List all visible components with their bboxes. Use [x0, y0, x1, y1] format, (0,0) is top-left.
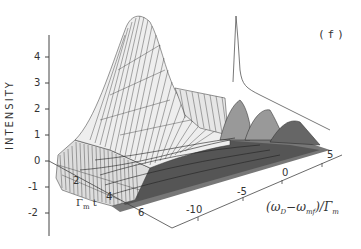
- time-axis-label: Γm t: [76, 197, 97, 211]
- x-label-sub2: mf: [306, 208, 315, 216]
- x-tick-minus5: -5: [237, 187, 247, 197]
- x-axis-label: (ωD−ωmf)/Γm: [266, 200, 339, 216]
- t-tick-6: 6: [138, 208, 144, 218]
- x-label-part2: −ω: [286, 200, 306, 214]
- x-tick-5: 5: [327, 150, 333, 160]
- t-tick-2: 2: [73, 176, 79, 186]
- y-tick-minus2: -2: [28, 208, 38, 218]
- y-tick-3: 3: [34, 78, 40, 88]
- panel-label: (f): [318, 28, 347, 41]
- y-axis-label: INTENSITY: [4, 80, 15, 150]
- time-label-sub: m: [83, 203, 90, 211]
- time-label-gamma: Γ: [76, 197, 83, 208]
- x-label-sub3: m: [332, 208, 339, 216]
- surface-plot-figure: 4 3 2 1 0 -1 -2 INTENSITY (f) 5 0 -5 -10…: [0, 0, 361, 249]
- x-label-part1: (ω: [266, 200, 280, 214]
- intensity-axis: [45, 35, 49, 236]
- t-tick-4: 4: [106, 192, 112, 202]
- inset-spectrum: [233, 16, 330, 130]
- x-tick-0: 0: [282, 168, 288, 178]
- y-tick-2: 2: [34, 104, 40, 114]
- x-label-part3: )/Γ: [315, 200, 332, 214]
- y-tick-4: 4: [34, 52, 40, 62]
- time-label-t: t: [93, 197, 97, 208]
- x-tick-minus10: -10: [186, 205, 202, 215]
- y-tick-0: 0: [34, 156, 40, 166]
- y-tick-1: 1: [34, 130, 40, 140]
- y-tick-minus1: -1: [28, 182, 38, 192]
